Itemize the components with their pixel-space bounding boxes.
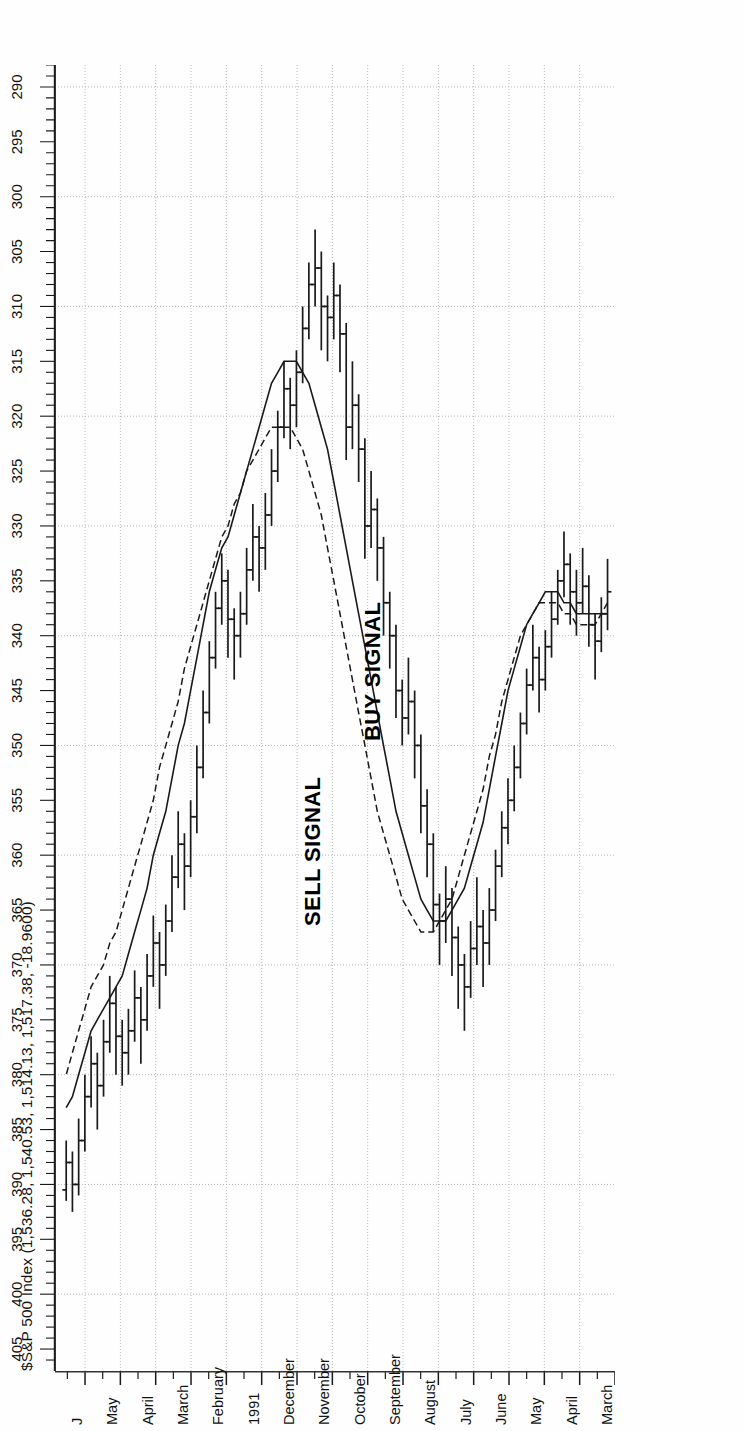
month-tick-ruler	[55, 1371, 615, 1397]
month-tick-label: December	[281, 1358, 297, 1425]
month-tick-label: October	[352, 1373, 368, 1425]
price-tick-label: 310	[8, 294, 25, 319]
price-tick-label: 390	[8, 1172, 25, 1197]
month-tick-label: March	[175, 1385, 191, 1425]
buy-signal-annotation: BUY SIGNAL	[360, 602, 386, 741]
stock-chart-figure: $S&P 500 Index (1,536.28, 1,540.53, 1,51…	[0, 0, 743, 1431]
month-tick-label: J	[69, 1418, 85, 1425]
price-tick-label: 385	[8, 1117, 25, 1142]
month-tick-label: June	[493, 1394, 509, 1425]
price-tick-label: 365	[8, 898, 25, 923]
price-tick-label: 395	[8, 1227, 25, 1252]
month-tick-label: September	[387, 1354, 403, 1425]
price-tick-label: 340	[8, 623, 25, 648]
price-tick-label: 345	[8, 678, 25, 703]
price-tick-label: 335	[8, 568, 25, 593]
month-tick-label: 1991	[246, 1393, 262, 1425]
month-tick-label: May	[528, 1398, 544, 1425]
month-tick-label: April	[140, 1396, 156, 1425]
price-tick-label: 360	[8, 843, 25, 868]
price-tick-label: 380	[8, 1062, 25, 1087]
price-axis	[55, 0, 615, 65]
plot-svg	[55, 65, 615, 1371]
price-tick-label: 290	[8, 74, 25, 99]
month-tick-label: March	[599, 1385, 615, 1425]
month-tick-label: April	[564, 1396, 580, 1425]
price-ruler	[33, 65, 55, 1371]
price-tick-label: 295	[8, 129, 25, 154]
time-axis	[615, 65, 675, 1371]
month-tick-label: November	[316, 1358, 332, 1425]
price-tick-label: 325	[8, 459, 25, 484]
price-tick-label: 320	[8, 404, 25, 429]
price-tick-label: 370	[8, 952, 25, 977]
month-tick-label: August	[422, 1380, 438, 1425]
price-tick-label: 355	[8, 788, 25, 813]
month-tick-label: July	[458, 1399, 474, 1425]
sell-signal-annotation: SELL SIGNAL	[300, 777, 326, 926]
price-tick-label: 315	[8, 349, 25, 374]
price-tick-label: 375	[8, 1007, 25, 1032]
month-tick-label: May	[104, 1398, 120, 1425]
price-axis-ticks	[55, 0, 615, 65]
rotated-figure-wrapper: $S&P 500 Index (1,536.28, 1,540.53, 1,51…	[0, 0, 743, 1431]
price-tick-label: 350	[8, 733, 25, 758]
month-tick-label: February	[210, 1367, 226, 1425]
time-ruler	[615, 65, 655, 1371]
price-tick-label: 330	[8, 513, 25, 538]
price-tick-label: 400	[8, 1282, 25, 1307]
price-tick-label: 305	[8, 239, 25, 264]
plot-area	[55, 65, 615, 1371]
price-tick-label: 300	[8, 184, 25, 209]
price-tick-label: 405	[8, 1337, 25, 1362]
chart-page: $S&P 500 Index (1,536.28, 1,540.53, 1,51…	[0, 0, 743, 1431]
